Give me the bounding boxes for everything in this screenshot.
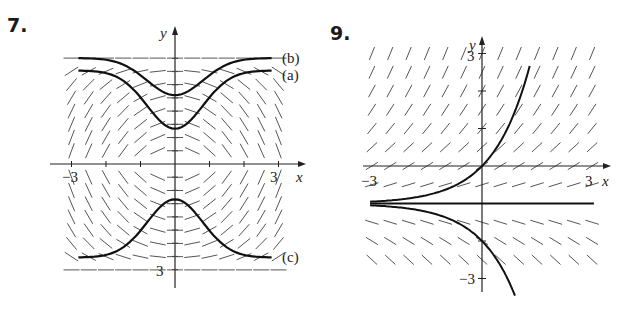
slope-segment: [568, 237, 580, 244]
slope-segment: [514, 143, 524, 152]
direction-field-chart-7: −333xy(b)(a)(c): [0, 0, 315, 313]
slope-segment: [460, 104, 468, 116]
slope-segment: [369, 47, 374, 60]
solution-curve-upper: [370, 66, 530, 202]
slope-segment: [258, 170, 264, 185]
slope-segment: [69, 183, 75, 198]
slope-segment: [439, 220, 452, 224]
slope-segment: [461, 47, 466, 60]
slope-segment: [150, 256, 166, 258]
slope-segment: [403, 255, 413, 264]
slope-segment: [424, 66, 430, 79]
slope-segment: [185, 174, 200, 181]
slope-segment: [185, 187, 200, 193]
slope-segment: [512, 183, 525, 187]
slope-segment: [202, 255, 218, 258]
slope-segment: [275, 117, 281, 132]
slope-segment: [221, 105, 232, 117]
slope-segment: [384, 237, 396, 244]
slope-segment: [119, 171, 128, 184]
slope-segment: [134, 199, 147, 209]
slope-segment: [85, 117, 92, 131]
slope-segment: [589, 47, 594, 60]
slope-segment: [185, 134, 200, 140]
slope-segment: [68, 117, 74, 132]
slope-segment: [274, 91, 282, 105]
slope-segment: [222, 184, 232, 197]
slope-segment: [238, 238, 250, 248]
slope-segment: [118, 198, 128, 210]
slope-segment: [221, 93, 233, 103]
slope-segment: [239, 92, 250, 104]
slope-segment: [86, 170, 92, 185]
slope-segment: [403, 143, 413, 152]
solution-curve-lower: [370, 205, 515, 295]
slope-segment: [118, 105, 129, 117]
slope-segment: [150, 228, 165, 232]
slope-segment: [421, 237, 433, 244]
slope-segment: [423, 104, 431, 116]
slope-segment: [275, 196, 281, 211]
slope-segment: [134, 185, 146, 195]
slope-segment: [275, 210, 282, 224]
slope-segment: [586, 237, 598, 244]
slope-segment: [240, 118, 249, 132]
slope-segment: [240, 144, 248, 158]
slope-segment: [85, 104, 93, 118]
slope-segment: [422, 143, 432, 152]
slope-segment: [534, 47, 539, 60]
slope-segment: [203, 132, 215, 142]
slope-segment: [219, 69, 234, 74]
slope-segment: [403, 237, 415, 244]
slope-segment: [118, 184, 128, 197]
slope-segment: [222, 131, 232, 144]
slope-segment: [494, 183, 507, 187]
slope-segment: [222, 118, 232, 130]
slope-segment: [101, 224, 112, 236]
slope-segment: [366, 237, 378, 244]
slope-segment: [406, 47, 411, 60]
slope-segment: [150, 96, 165, 100]
slope-segment: [100, 80, 112, 90]
slope-segment: [367, 123, 376, 134]
slope-segment: [497, 66, 503, 79]
slope-segment: [258, 130, 265, 145]
slope-segment: [184, 70, 200, 72]
slope-segment: [550, 143, 560, 152]
slope-segment: [514, 123, 523, 134]
slope-segment: [273, 237, 283, 249]
slope-segment: [530, 183, 543, 187]
slope-segment: [420, 220, 433, 224]
slope-segment: [386, 104, 394, 116]
slope-segment: [69, 130, 75, 145]
slope-segment: [203, 119, 216, 129]
y-axis-arrow-icon: [172, 26, 178, 35]
slope-segment: [567, 220, 580, 224]
slope-segment: [119, 144, 128, 157]
slope-segment: [275, 104, 282, 118]
slope-segment: [222, 171, 231, 184]
slope-segment: [150, 147, 165, 154]
slope-segment: [102, 131, 110, 145]
slope-segment: [497, 85, 504, 97]
slope-segment: [85, 183, 92, 198]
slope-segment: [133, 82, 148, 88]
slope-segment: [516, 47, 521, 60]
slope-segment: [386, 123, 395, 134]
slope-segment: [424, 85, 431, 97]
slope-segment: [549, 183, 562, 187]
slope-segment: [439, 183, 452, 187]
slope-segment: [439, 237, 451, 244]
slope-segment: [422, 255, 432, 264]
slope-segment: [240, 170, 248, 184]
slope-segment: [550, 255, 560, 264]
x-tick-label-min: −3: [62, 169, 78, 185]
slope-segment: [588, 123, 597, 134]
y-axis-arrow-icon: [479, 36, 485, 45]
slope-segment: [367, 143, 377, 152]
slope-segment: [102, 118, 111, 132]
slope-segment: [102, 184, 110, 198]
slope-segment: [84, 91, 93, 104]
slope-segment: [202, 82, 217, 88]
slope-segment: [549, 220, 562, 224]
